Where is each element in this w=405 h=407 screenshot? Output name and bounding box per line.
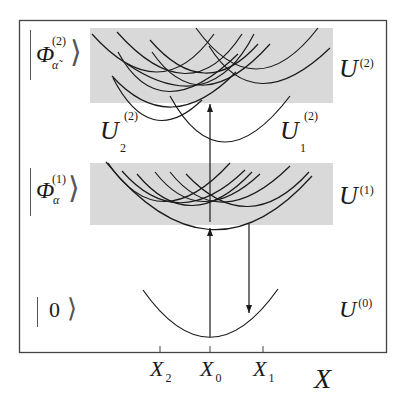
ket-phi1-sup: (1) bbox=[52, 172, 66, 187]
tick-label-X1-sub: 1 bbox=[268, 371, 274, 385]
label-U1-main: U bbox=[339, 181, 358, 210]
tick-label-X0-sub: 0 bbox=[215, 371, 221, 385]
label-U2-2-sub: 2 bbox=[120, 142, 126, 154]
ket-phi2-sup: (2) bbox=[52, 34, 66, 49]
band-U1 bbox=[90, 163, 333, 225]
ket-angle-right: ⟩ bbox=[70, 37, 82, 67]
ket-phi1-sub: α bbox=[53, 193, 59, 208]
tick-label-X1: X1 bbox=[253, 358, 274, 380]
label-U2-2-main: U bbox=[100, 116, 119, 145]
label-U2-1: U(2)1 bbox=[280, 118, 299, 144]
tick-label-X2: X2 bbox=[150, 358, 171, 380]
label-U1: U(1) bbox=[339, 183, 374, 209]
diagram-canvas: Φ (2) α̃ ⟩ Φ (1) α ⟩ 0 ⟩ U(2) U(1) U(0) … bbox=[0, 0, 405, 407]
label-U2: U(2) bbox=[339, 56, 374, 82]
tick-label-X0-main: X bbox=[200, 356, 213, 381]
label-U2-1-sup: (2) bbox=[304, 110, 318, 122]
ket-bar bbox=[30, 30, 31, 80]
ket-phi2-sub: α̃ bbox=[52, 58, 58, 73]
tick-label-X1-main: X bbox=[253, 356, 266, 381]
tick-label-X0: X0 bbox=[200, 358, 221, 380]
tick-label-X2-sub: 2 bbox=[165, 371, 171, 385]
axis-label-X: X bbox=[314, 365, 331, 393]
ket-bar bbox=[37, 297, 38, 327]
label-U0-sup: (0) bbox=[358, 296, 372, 310]
ket-angle-right: ⟩ bbox=[67, 296, 77, 322]
label-U2-1-sub: 1 bbox=[300, 142, 306, 154]
label-U0: U(0) bbox=[339, 297, 372, 321]
ket-ground-main: 0 bbox=[49, 299, 60, 321]
label-U2-sup: (2) bbox=[360, 56, 374, 70]
label-U2-main: U bbox=[339, 54, 358, 83]
ket-bar bbox=[30, 168, 31, 216]
tick-label-X2-main: X bbox=[150, 356, 163, 381]
label-U1-sup: (1) bbox=[360, 183, 374, 197]
label-U2-2: U(2)2 bbox=[100, 118, 119, 144]
label-U0-main: U bbox=[339, 296, 356, 322]
label-U2-1-main: U bbox=[280, 116, 299, 145]
ket-angle-right: ⟩ bbox=[68, 173, 80, 203]
label-U2-2-sup: (2) bbox=[124, 110, 138, 122]
